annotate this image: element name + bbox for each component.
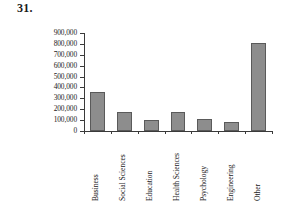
x-axis-tick-label-text: Health Sciences — [173, 153, 181, 201]
y-axis-tick-label: 800,000 — [54, 39, 77, 48]
bar — [90, 92, 105, 131]
x-axis-tick-mark — [111, 131, 112, 134]
y-axis-tick-label: 400,000 — [54, 82, 77, 91]
y-axis-tick-label: 600,000 — [54, 61, 77, 70]
x-axis-tick-label-text: Other — [254, 184, 262, 201]
y-axis-tick-label: 100,000 — [54, 115, 77, 124]
bar — [144, 120, 159, 131]
x-axis-tick-label-text: Education — [146, 171, 154, 201]
x-axis-tick-mark — [245, 131, 246, 134]
bar — [117, 112, 132, 131]
bar — [251, 43, 266, 131]
y-axis-tick-label: 200,000 — [54, 104, 77, 113]
x-axis-tick-mark — [84, 131, 85, 134]
x-axis-tick-mark — [165, 131, 166, 134]
y-axis-tick-label: 700,000 — [54, 50, 77, 59]
x-axis-tick-mark — [191, 131, 192, 134]
x-axis-tick-mark — [138, 131, 139, 134]
x-axis-tick-mark — [272, 131, 273, 134]
x-axis-tick-label-text: Business — [92, 174, 100, 201]
bar — [171, 112, 186, 131]
y-axis-tick-label: 500,000 — [54, 72, 77, 81]
bar — [224, 122, 239, 131]
x-axis-tick-label-text: Engineering — [227, 164, 235, 201]
problem-number: 31. — [17, 2, 33, 14]
y-axis-tick-label: 0 — [73, 126, 77, 135]
x-axis-tick-label-text: Social Sciences — [119, 154, 127, 201]
x-axis-tick-mark — [218, 131, 219, 134]
y-axis-tick-label: 900,000 — [54, 28, 77, 37]
bar — [197, 119, 212, 131]
bar-chart-figure: 31. 0100,000200,000300,000400,000500,000… — [0, 0, 284, 203]
x-axis-tick-label-text: Psychology — [200, 166, 208, 201]
plot-area — [84, 33, 272, 131]
y-axis-tick-label: 300,000 — [54, 93, 77, 102]
